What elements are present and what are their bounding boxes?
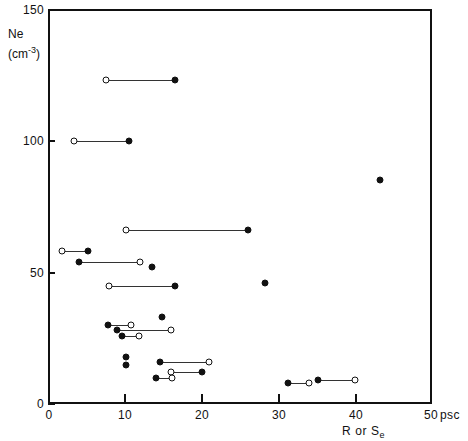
y-axis-title: Ne (cm-3)	[8, 26, 40, 62]
y-tick-label-150: 150	[0, 3, 44, 17]
x-tick-label-10: 10	[118, 408, 132, 422]
y-tick-label-0: 0	[0, 397, 44, 411]
y-axis-title-main: Ne	[8, 27, 23, 41]
y-tick-150	[48, 9, 55, 11]
y-unit-open: (cm	[8, 47, 28, 61]
y-tick-label-50: 50	[0, 266, 44, 280]
x-tick-label-50: 50	[424, 408, 438, 422]
plot-frame	[48, 9, 432, 404]
x-tick-10	[124, 394, 126, 404]
x-tick-label-0: 0	[45, 408, 52, 422]
x-tick-20	[201, 394, 203, 404]
x-axis-title-sub: e	[380, 430, 386, 440]
x-tick-30	[278, 394, 280, 404]
y-tick-label-100: 100	[0, 134, 44, 148]
y-tick-50	[48, 272, 55, 274]
x-tick-label-40: 40	[349, 408, 363, 422]
y-tick-100	[48, 140, 55, 142]
x-tick-50	[430, 394, 432, 404]
x-tick-label-30: 30	[272, 408, 286, 422]
x-axis-unit-label: psc	[440, 408, 460, 422]
scatter-plot-figure: 150 100 50 0 0 10 20 30 40 50 psc Ne (cm…	[0, 0, 468, 441]
x-axis-title: R or Se	[342, 424, 385, 440]
x-tick-40	[355, 394, 357, 404]
y-axis-title-unit: (cm-3)	[8, 42, 40, 62]
x-axis-title-main: R or S	[342, 424, 380, 438]
y-unit-exponent: -3	[28, 45, 36, 55]
x-tick-0	[48, 394, 50, 404]
x-tick-label-20: 20	[195, 408, 209, 422]
y-unit-close: )	[36, 47, 40, 61]
